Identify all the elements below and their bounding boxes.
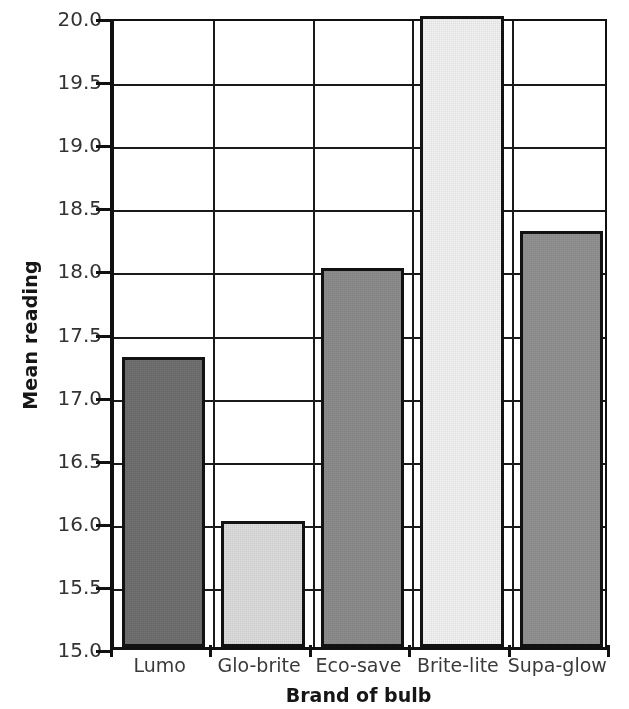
bar: [221, 521, 304, 647]
x-axis-tick-label: Brite-lite: [417, 654, 499, 676]
x-axis-tick-label: Lumo: [133, 654, 185, 676]
x-axis-tick-mark: [110, 645, 113, 657]
plot-area: [110, 19, 607, 650]
x-axis-tick-mark: [408, 645, 411, 657]
y-axis-tick-label: 15.0: [30, 640, 102, 660]
bar-texture: [224, 524, 301, 644]
x-axis-tick-label: Eco-save: [316, 654, 402, 676]
y-axis-tick-label: 20.0: [30, 9, 102, 29]
y-axis-tick-label: 17.0: [30, 388, 102, 408]
y-axis-tick-mark: [96, 587, 110, 590]
bar: [420, 16, 503, 647]
y-axis-tick-label: 19.5: [30, 72, 102, 92]
bar: [321, 268, 404, 647]
x-axis-title: Brand of bulb: [110, 684, 607, 706]
y-axis-tick-mark: [96, 145, 110, 148]
bar-texture: [324, 271, 401, 644]
y-axis-tick-mark: [96, 208, 110, 211]
y-axis-tick-mark: [96, 19, 110, 22]
bars-layer: [114, 21, 605, 647]
x-axis-tick-mark: [607, 645, 610, 657]
x-axis-tick-label: Glo-brite: [218, 654, 301, 676]
y-axis-tick-mark: [96, 271, 110, 274]
y-axis-tick-mark: [96, 461, 110, 464]
y-axis-tick-mark: [96, 82, 110, 85]
y-axis-tick-mark: [96, 524, 110, 527]
y-axis-tick-label: 16.0: [30, 514, 102, 534]
x-axis-tick-label: Supa-glow: [508, 654, 607, 676]
y-axis-tick-label: 16.5: [30, 451, 102, 471]
y-axis-tick-label: 19.0: [30, 135, 102, 155]
x-axis-tick-mark: [209, 645, 212, 657]
y-axis-tick-label: 18.0: [30, 261, 102, 281]
bar-chart: Mean reading 20.019.519.018.518.017.517.…: [0, 0, 629, 709]
bar-texture: [523, 234, 600, 644]
y-axis-tick-label: 17.5: [30, 325, 102, 345]
bar: [122, 357, 205, 647]
x-axis-tick-labels: LumoGlo-briteEco-saveBrite-liteSupa-glow: [110, 654, 607, 684]
y-axis-tick-label: 15.5: [30, 577, 102, 597]
x-axis-tick-mark: [309, 645, 312, 657]
bar-texture: [125, 360, 202, 644]
y-axis-tick-mark: [96, 650, 110, 653]
y-axis-tick-mark: [96, 398, 110, 401]
y-axis-tick-mark: [96, 335, 110, 338]
y-axis-tick-label: 18.5: [30, 198, 102, 218]
bar: [520, 231, 603, 647]
y-axis-tick-labels: 20.019.519.018.518.017.517.016.516.015.5…: [30, 0, 102, 709]
bar-texture: [423, 19, 500, 644]
